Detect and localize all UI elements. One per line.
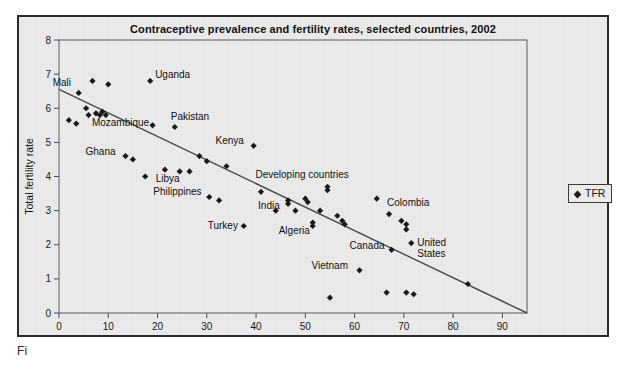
data-point-marker bbox=[292, 208, 298, 214]
data-point-marker bbox=[66, 117, 72, 123]
point-annotation-label: Mozambique bbox=[92, 117, 150, 128]
x-axis-tick-label: 20 bbox=[152, 321, 164, 332]
data-point-marker bbox=[334, 213, 340, 219]
data-point-marker bbox=[162, 167, 168, 173]
x-axis-title: Percent using modern contraceptives bbox=[206, 337, 379, 339]
x-axis-tick-label: 10 bbox=[103, 321, 115, 332]
x-axis-tick-label: 30 bbox=[201, 321, 213, 332]
x-axis-tick-label: 60 bbox=[349, 321, 361, 332]
point-annotation-label: Developing countries bbox=[255, 169, 348, 180]
x-axis-tick-label: 0 bbox=[56, 321, 62, 332]
data-point-marker bbox=[122, 153, 128, 159]
data-point-marker bbox=[408, 240, 414, 246]
point-annotation-label: Turkey bbox=[208, 220, 238, 231]
point-annotation-label: Vietnam bbox=[312, 260, 349, 271]
point-annotation-label: Algeria bbox=[279, 225, 311, 236]
point-annotation-label: India bbox=[258, 200, 280, 211]
y-axis-tick-label: 8 bbox=[45, 35, 51, 46]
data-point-marker bbox=[89, 78, 95, 84]
data-point-marker bbox=[356, 267, 362, 273]
screenshot-root: Contraceptive prevalence and fertility r… bbox=[0, 0, 626, 366]
y-axis-tick-label: 0 bbox=[45, 308, 51, 319]
y-axis-tick-label: 4 bbox=[45, 171, 51, 182]
data-point-marker bbox=[386, 211, 392, 217]
diamond-marker-icon bbox=[573, 189, 582, 198]
y-axis-title: Total fertility rate bbox=[23, 138, 35, 215]
data-point-marker bbox=[374, 196, 380, 202]
point-annotation-label: States bbox=[417, 248, 445, 259]
x-axis-tick-label: 50 bbox=[300, 321, 312, 332]
chart-legend: TFR bbox=[568, 184, 612, 203]
data-point-marker bbox=[310, 223, 316, 229]
figure-panel: Contraceptive prevalence and fertility r… bbox=[17, 15, 609, 337]
point-annotation-label: Pakistan bbox=[171, 111, 209, 122]
data-point-marker bbox=[384, 289, 390, 295]
x-axis-tick-label: 40 bbox=[250, 321, 262, 332]
point-annotation-label: Kenya bbox=[216, 135, 245, 146]
x-axis-tick-label: 90 bbox=[497, 321, 509, 332]
data-point-marker bbox=[150, 122, 156, 128]
data-point-marker bbox=[258, 189, 264, 195]
legend-label-tfr: TFR bbox=[585, 187, 605, 199]
data-point-marker bbox=[142, 173, 148, 179]
data-point-marker bbox=[324, 187, 330, 193]
point-annotation-label: Libya bbox=[156, 173, 180, 184]
bottom-caption: Fi bbox=[17, 344, 27, 358]
point-annotation-label: Colombia bbox=[387, 197, 430, 208]
data-point-marker bbox=[172, 124, 178, 130]
x-axis-tick-label: 70 bbox=[398, 321, 410, 332]
data-point-marker bbox=[285, 201, 291, 207]
point-annotation-label: Mali bbox=[53, 77, 71, 88]
data-point-marker bbox=[206, 194, 212, 200]
data-point-marker bbox=[186, 168, 192, 174]
point-annotation-label: Philippines bbox=[153, 186, 201, 197]
data-point-marker bbox=[130, 156, 136, 162]
y-axis-tick-label: 7 bbox=[45, 69, 51, 80]
data-point-marker bbox=[241, 223, 247, 229]
y-axis-tick-label: 1 bbox=[45, 273, 51, 284]
y-axis-tick-label: 3 bbox=[45, 205, 51, 216]
data-point-marker bbox=[83, 105, 89, 111]
data-point-marker bbox=[398, 218, 404, 224]
scatter-plot: 0102030405060708090012345678Percent usin… bbox=[19, 17, 611, 339]
point-annotation-label: Ghana bbox=[86, 146, 116, 157]
data-point-marker bbox=[411, 291, 417, 297]
data-point-marker bbox=[85, 112, 91, 118]
data-point-marker bbox=[105, 81, 111, 87]
data-point-marker bbox=[147, 78, 153, 84]
point-annotation-label: Uganda bbox=[155, 69, 190, 80]
x-axis-tick-label: 80 bbox=[448, 321, 460, 332]
data-point-marker bbox=[216, 197, 222, 203]
data-point-marker bbox=[327, 295, 333, 301]
data-point-marker bbox=[250, 143, 256, 149]
data-point-marker bbox=[76, 90, 82, 96]
y-axis-tick-label: 5 bbox=[45, 137, 51, 148]
data-point-marker bbox=[403, 289, 409, 295]
data-point-marker bbox=[403, 226, 409, 232]
data-point-marker bbox=[73, 121, 79, 127]
y-axis-tick-label: 2 bbox=[45, 239, 51, 250]
point-annotation-label: Canada bbox=[350, 240, 385, 251]
y-axis-tick-label: 6 bbox=[45, 103, 51, 114]
point-annotation-label: United bbox=[417, 237, 446, 248]
